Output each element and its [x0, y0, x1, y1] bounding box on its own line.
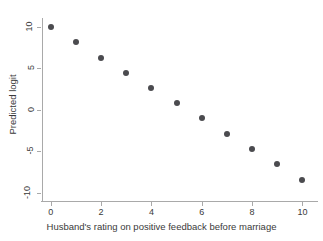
data-point	[48, 24, 54, 30]
y-axis-title: Predicted logit	[7, 45, 18, 165]
x-axis-title: Husband's rating on positive feedback be…	[0, 221, 323, 232]
plot-area	[42, 20, 315, 198]
data-point	[98, 55, 104, 61]
data-point	[224, 131, 230, 137]
x-axis-tick-label: 6	[187, 207, 217, 217]
x-axis-tick	[302, 202, 303, 206]
y-axis-tick	[37, 68, 41, 69]
x-axis-tick	[252, 202, 253, 206]
y-axis-tick-label: 10	[0, 22, 34, 31]
y-axis-tick	[37, 27, 41, 28]
data-point	[148, 85, 154, 91]
data-point	[174, 100, 180, 106]
y-axis-tick	[37, 110, 41, 111]
data-point	[199, 115, 205, 121]
scatter-plot-figure: 1050-5-10 0246810 Predicted logit Husban…	[0, 0, 323, 241]
data-point	[73, 39, 79, 45]
x-axis-line	[41, 201, 318, 202]
x-axis-tick	[101, 202, 102, 206]
x-axis-tick-label: 8	[237, 207, 267, 217]
x-axis-tick-label: 10	[287, 207, 317, 217]
x-axis-tick-label: 4	[136, 207, 166, 217]
y-axis-tick	[37, 151, 41, 152]
data-point	[274, 161, 280, 167]
x-axis-tick-label: 2	[86, 207, 116, 217]
data-point	[123, 70, 129, 76]
data-point	[249, 146, 255, 152]
x-axis-tick	[151, 202, 152, 206]
x-axis-tick	[51, 202, 52, 206]
y-axis-tick	[37, 193, 41, 194]
y-axis-tick-label: -10	[0, 188, 34, 197]
x-axis-tick-label: 0	[36, 207, 66, 217]
data-point	[299, 177, 305, 183]
x-axis-tick	[202, 202, 203, 206]
